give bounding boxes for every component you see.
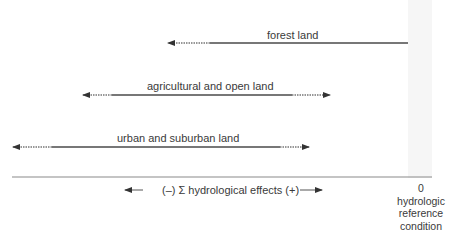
reference-line-2: reference [396,207,446,220]
forest-land-label: forest land [267,29,318,41]
agricultural-land-label: agricultural and open land [147,80,274,92]
hydrological-effects-caption: (–) Σ hydrological effects (+) [162,184,299,196]
reference-line-1: hydrologic [396,195,446,208]
urban-land-label: urban and suburban land [117,132,239,144]
reference-zero: 0 [396,182,446,195]
effects-diagram [0,0,457,242]
reference-condition-label: 0 hydrologic reference condition [396,182,446,232]
reference-line-3: condition [396,220,446,233]
